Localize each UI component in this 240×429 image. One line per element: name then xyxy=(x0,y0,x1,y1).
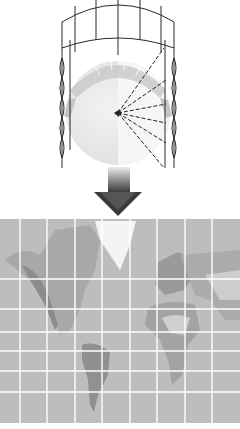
arrow-down-icon xyxy=(94,167,142,216)
cylindrical-projection-diagram xyxy=(0,0,240,429)
globe xyxy=(64,53,172,165)
world-map xyxy=(0,219,240,423)
